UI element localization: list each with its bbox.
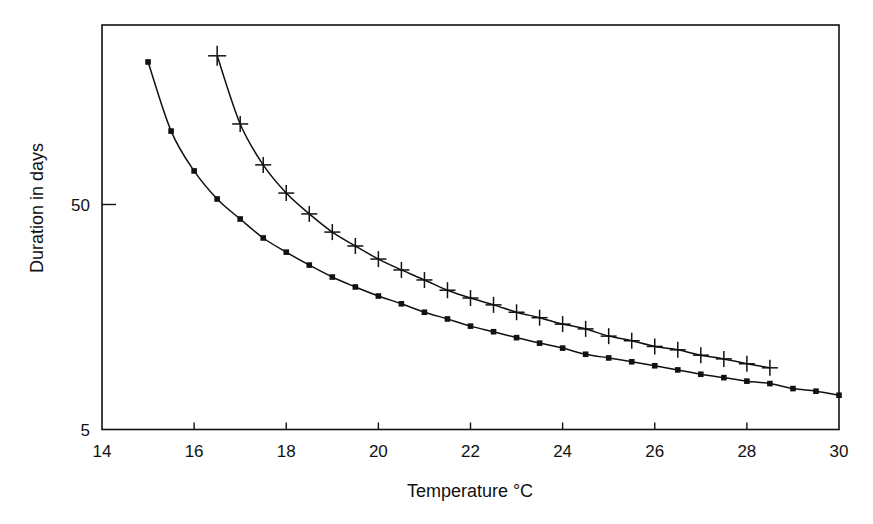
square-marker xyxy=(283,249,289,255)
square-marker xyxy=(652,363,658,369)
x-tick-label: 24 xyxy=(553,442,572,461)
series-layer xyxy=(145,46,842,398)
square-marker xyxy=(306,262,312,268)
square-marker xyxy=(767,381,773,387)
square-marker xyxy=(445,316,451,322)
square-marker xyxy=(145,59,151,65)
plot-border xyxy=(102,25,839,430)
x-axis-ticks: 141618202224262830 xyxy=(93,423,849,461)
square-marker xyxy=(191,168,197,174)
x-axis-title: Temperature °C xyxy=(407,481,533,501)
x-tick-label: 20 xyxy=(369,442,388,461)
square-marker xyxy=(813,388,819,394)
x-tick-label: 18 xyxy=(277,442,296,461)
plot-frame xyxy=(102,25,839,430)
square-marker xyxy=(790,386,796,392)
square-marker xyxy=(422,309,428,315)
chart: 141618202224262830 550 Temperature °C Du… xyxy=(0,0,873,524)
x-tick-label: 16 xyxy=(185,442,204,461)
y-axis-ticks: 550 xyxy=(71,196,116,440)
x-tick-label: 26 xyxy=(645,442,664,461)
x-tick-label: 30 xyxy=(830,442,849,461)
square-marker xyxy=(260,235,266,241)
square-marker xyxy=(583,351,589,357)
y-axis-title: Duration in days xyxy=(27,143,47,273)
square-marker xyxy=(698,371,704,377)
square-marker xyxy=(629,359,635,365)
x-tick-label: 14 xyxy=(93,442,112,461)
cross-series xyxy=(208,46,778,376)
square-marker xyxy=(675,367,681,373)
square-marker xyxy=(491,329,497,335)
series-line xyxy=(217,56,770,368)
square-marker xyxy=(468,323,474,329)
square-marker xyxy=(376,293,382,299)
square-marker xyxy=(514,335,520,341)
square-marker xyxy=(399,301,405,307)
square-marker xyxy=(721,375,727,381)
x-tick-label: 22 xyxy=(461,442,480,461)
square-marker xyxy=(537,340,543,346)
square-marker xyxy=(237,216,243,222)
series-line xyxy=(148,62,839,395)
square-series xyxy=(145,59,842,398)
y-tick-label: 5 xyxy=(81,421,90,440)
square-marker xyxy=(214,196,220,202)
x-tick-label: 28 xyxy=(737,442,756,461)
square-marker xyxy=(168,128,174,134)
square-marker xyxy=(744,378,750,384)
square-marker xyxy=(353,284,359,290)
square-marker xyxy=(330,274,336,280)
square-marker xyxy=(606,355,612,361)
square-marker xyxy=(836,392,842,398)
square-marker xyxy=(560,345,566,351)
y-tick-label: 50 xyxy=(71,196,90,215)
